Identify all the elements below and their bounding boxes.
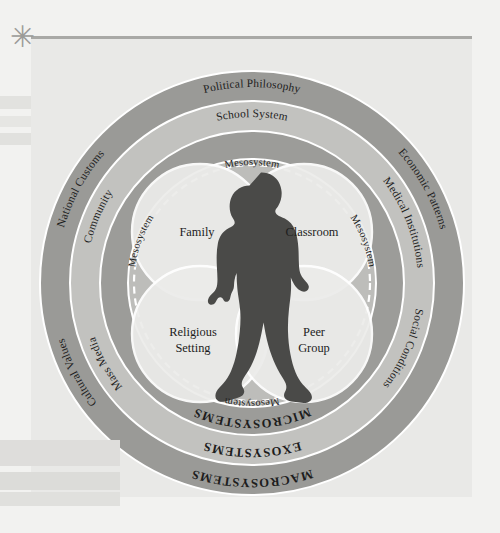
ecological-systems-diagram: Family Classroom Religious Setting Peer …	[0, 0, 500, 533]
label-peer-group-line1: Peer	[303, 325, 326, 339]
label-family: Family	[179, 225, 215, 239]
asterisk-mark: ✳	[10, 22, 35, 52]
figure-page: Family Classroom Religious Setting Peer …	[0, 0, 500, 533]
label-classroom: Classroom	[285, 225, 338, 239]
label-religious-setting-line1: Religious	[169, 325, 217, 339]
label-peer-group-line2: Group	[298, 341, 330, 355]
label-religious-setting-line2: Setting	[175, 341, 210, 355]
